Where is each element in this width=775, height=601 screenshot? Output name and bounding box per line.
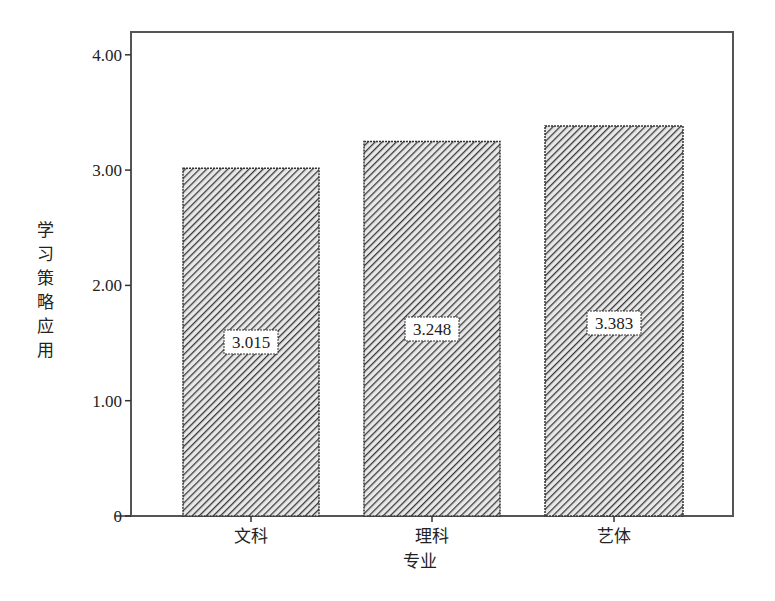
x-category-label: 文科 <box>234 526 268 546</box>
y-axis-title-char: 应 <box>37 316 54 336</box>
y-axis-title: 学习策略应用 <box>37 220 54 360</box>
y-tick-label: 2.00 <box>92 276 122 295</box>
y-axis-title-char: 策 <box>37 268 54 288</box>
y-tick-label: 3.00 <box>92 161 122 180</box>
y-axis-title-char: 略 <box>37 292 54 312</box>
bars-group: 3.0153.2483.383 <box>183 126 683 516</box>
value-label: 3.383 <box>595 314 633 333</box>
x-category-label: 理科 <box>415 526 449 546</box>
y-tick-label: 1.00 <box>92 392 122 411</box>
value-label: 3.015 <box>232 333 270 352</box>
y-axis-title-char: 学 <box>37 220 54 240</box>
y-axis-title-char: 用 <box>37 340 54 360</box>
value-label: 3.248 <box>413 320 451 339</box>
bar-chart: 3.0153.2483.383 01.002.003.004.00 文科理科艺体… <box>0 0 775 601</box>
x-axis-title: 专业 <box>403 551 437 571</box>
y-tick-label: 4.00 <box>92 46 122 65</box>
y-axis-title-char: 习 <box>37 244 54 264</box>
x-axis: 文科理科艺体 <box>234 516 631 546</box>
x-category-label: 艺体 <box>597 526 631 546</box>
y-axis: 01.002.003.004.00 <box>92 46 131 526</box>
